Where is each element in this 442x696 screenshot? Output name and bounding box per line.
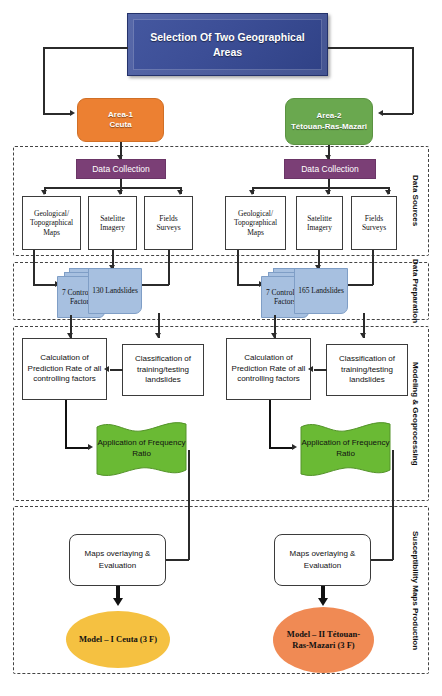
landslides-left-label: 130 Landslides — [92, 286, 138, 295]
conn-title-left-v1 — [43, 47, 45, 114]
source-left-satellite[interactable]: Satelitte Imagery — [88, 196, 137, 250]
source-right-maps[interactable]: Geological/ Topographical Maps — [225, 196, 286, 250]
prediction-rate-right-label: Calculation of Prediction Rate of all co… — [229, 353, 308, 384]
arrow-to-area-1 — [70, 110, 75, 116]
landslides-right[interactable]: 165 Landslides — [294, 268, 346, 314]
band-label-text: Data Sources — [411, 175, 420, 226]
band-label-text: Data Preparation — [411, 259, 420, 323]
arrow-dcL-2 — [117, 190, 123, 195]
conn-Rpred-freq-h — [269, 447, 294, 449]
band-label-data-preparation: Data Preparation — [404, 264, 426, 318]
frequency-ratio-left-label: Application of Frequency Ratio — [95, 438, 188, 460]
source-right-fields-label: Fields Surveys — [354, 214, 394, 233]
source-left-maps-label: Geological/ Topographical Maps — [25, 209, 78, 237]
conn-Lfreq-ov-h — [166, 559, 189, 561]
prediction-rate-right[interactable]: Calculation of Prediction Rate of all co… — [226, 338, 311, 400]
conn-title-right-h1 — [328, 47, 414, 49]
arrow-Rpred-freq — [292, 444, 297, 450]
prediction-rate-left[interactable]: Calculation of Prediction Rate of all co… — [22, 338, 107, 400]
conn-dcL-stem — [120, 179, 122, 187]
area-2-label: Area-2 Tétouan-Ras-Mazari — [291, 111, 367, 132]
maps-overlaying-right[interactable]: Maps overlaying & Evaluation — [274, 534, 371, 586]
model-2-label: Model – II Tétouan-Ras-Mazari (3 F) — [279, 629, 368, 652]
arrow-dcR-3 — [385, 190, 391, 195]
model-2-ellipse[interactable]: Model – II Tétouan-Ras-Mazari (3 F) — [273, 607, 374, 673]
conn-title-right-h2 — [383, 113, 413, 115]
conn-title-left-h1 — [43, 47, 128, 49]
arrow-Lov-model — [113, 598, 123, 606]
landslides-right-doc: 165 Landslides — [294, 268, 348, 314]
conn-title-right-v1 — [412, 47, 414, 114]
arrow-Rclass-pred — [308, 366, 313, 372]
conn-title-left-h2 — [43, 113, 71, 115]
conn-dcR-bar — [252, 187, 389, 189]
conn-Lfields-v — [168, 250, 170, 285]
maps-overlaying-left[interactable]: Maps overlaying & Evaluation — [69, 534, 166, 586]
arrow-dcL-1 — [41, 190, 47, 195]
model-1-ellipse[interactable]: Model – I Ceuta (3 F) — [66, 611, 170, 668]
source-right-maps-label: Geological/ Topographical Maps — [228, 209, 283, 237]
band-label-text: Susceptibility Maps Production — [411, 531, 420, 650]
maps-overlaying-right-label: Maps overlaying & Evaluation — [277, 548, 368, 571]
title-box: Selection Of Two Geographical Areas — [127, 13, 328, 76]
classification-right-label: Classification of training/testing lands… — [329, 354, 405, 385]
data-collection-left[interactable]: Data Collection — [76, 159, 166, 179]
conn-Lclass-pred — [110, 369, 123, 371]
arrow-Rland-class — [360, 333, 366, 338]
data-collection-right-label: Data Collection — [301, 164, 359, 174]
conn-Rpred-freq-v — [269, 400, 271, 448]
landslides-right-label: 165 Landslides — [298, 286, 344, 295]
maps-overlaying-left-label: Maps overlaying & Evaluation — [72, 548, 163, 571]
classification-left-label: Classification of training/testing lands… — [125, 354, 201, 385]
arrow-Lclass-pred — [104, 366, 109, 372]
band-label-susceptibility: Susceptibility Maps Production — [404, 512, 426, 670]
source-left-fields-label: Fields Surveys — [147, 214, 190, 233]
source-left-maps[interactable]: Geological/ Topographical Maps — [22, 196, 81, 250]
source-right-satellite[interactable]: Satelitte Imagery — [296, 196, 343, 250]
conn-Lpred-freq-h — [65, 447, 90, 449]
arrow-to-area-2 — [378, 110, 383, 116]
data-collection-right[interactable]: Data Collection — [284, 159, 376, 179]
area-1-label: Area-1 Ceuta — [108, 110, 133, 131]
flowchart-canvas: Selection Of Two Geographical Areas Area… — [0, 0, 442, 696]
conn-Lpred-freq-v — [65, 400, 67, 448]
conn-Rfreq-ov-h — [371, 559, 393, 561]
arrow-Lland-class — [155, 333, 161, 338]
conn-Lfreq-ov-v — [188, 450, 190, 560]
source-right-satellite-label: Satelitte Imagery — [299, 214, 340, 233]
conn-dcL-bar — [44, 187, 181, 189]
prediction-rate-left-label: Calculation of Prediction Rate of all co… — [25, 353, 104, 384]
conn-Lmaps-v — [33, 250, 35, 285]
title-text: Selection Of Two Geographical Areas — [138, 30, 317, 58]
arrow-Lpred-freq — [88, 444, 93, 450]
frequency-ratio-right-label: Application of Frequency Ratio — [299, 438, 392, 460]
model-1-label: Model – I Ceuta (3 F) — [79, 634, 157, 645]
source-left-satellite-label: Satelitte Imagery — [91, 214, 134, 233]
conn-dcR-stem — [328, 179, 330, 187]
source-right-fields[interactable]: Fields Surveys — [351, 196, 397, 250]
band-label-data-sources: Data Sources — [404, 155, 426, 247]
conn-Rfreq-ov-v — [392, 450, 394, 560]
area-2-box[interactable]: Area-2 Tétouan-Ras-Mazari — [285, 98, 373, 145]
conn-Rclass-pred — [314, 369, 327, 371]
data-collection-left-label: Data Collection — [92, 164, 150, 174]
arrow-dcR-1 — [249, 190, 255, 195]
classification-right[interactable]: Classification of training/testing lands… — [326, 344, 408, 396]
landslides-left[interactable]: 130 Landslides — [88, 268, 140, 314]
band-label-text: Modeling & Geoprocessing — [411, 362, 420, 466]
arrow-dcL-3 — [177, 190, 183, 195]
conn-Rfields-v — [372, 250, 374, 285]
frequency-ratio-left[interactable]: Application of Frequency Ratio — [95, 419, 188, 479]
area-1-box[interactable]: Area-1 Ceuta — [77, 98, 164, 142]
landslides-left-doc: 130 Landslides — [88, 268, 142, 314]
classification-left[interactable]: Classification of training/testing lands… — [122, 344, 204, 396]
arrow-Rov-model — [318, 598, 328, 606]
frequency-ratio-right[interactable]: Application of Frequency Ratio — [299, 419, 392, 479]
arrow-dcR-2 — [325, 190, 331, 195]
source-left-fields[interactable]: Fields Surveys — [144, 196, 193, 250]
conn-Lmaps-h — [33, 284, 57, 286]
conn-Rmaps-h — [237, 284, 261, 286]
conn-Rmaps-v — [237, 250, 239, 285]
